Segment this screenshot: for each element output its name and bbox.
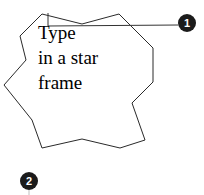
star-text-line-3: frame — [38, 70, 130, 95]
star-text-line-2: in a star — [38, 45, 130, 70]
star-text-line-1: Type — [38, 20, 130, 45]
star-text-block[interactable]: Type in a star frame — [38, 20, 130, 95]
callout-marker-1[interactable]: 1 — [178, 14, 196, 32]
callout-marker-2[interactable]: 2 — [20, 172, 38, 190]
star-frame-illustration: Type in a star frame 1 2 — [0, 0, 204, 195]
